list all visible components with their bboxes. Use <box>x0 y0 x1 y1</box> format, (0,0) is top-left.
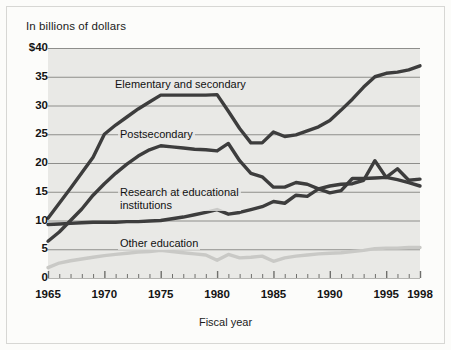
y-tick-label-40: $40 <box>8 42 48 54</box>
y-tick-label-0: 0 <box>8 272 48 284</box>
y-tick-label-15: 15 <box>8 186 48 198</box>
x-tick-label-1970: 1970 <box>92 288 118 300</box>
y-tick-label-25: 25 <box>8 128 48 140</box>
series-annotation-line-2: institutions <box>120 199 239 212</box>
y-tick-text: 10 <box>8 215 48 227</box>
y-tick-text: 20 <box>8 157 48 169</box>
y-tick-text: 35 <box>8 71 48 83</box>
x-tick-label-1965: 1965 <box>35 288 61 300</box>
y-tick-text: 15 <box>8 186 48 198</box>
chart-figure: In billions of dollars $4035302520151050… <box>0 0 451 350</box>
x-tick-label-1995: 1995 <box>373 288 399 300</box>
series-annotation-2: Research at educationalinstitutions <box>118 186 241 211</box>
y-tick-label-20: 20 <box>8 157 48 169</box>
x-tick-label-1985: 1985 <box>261 288 287 300</box>
y-tick-text: $40 <box>8 42 48 54</box>
x-axis-title: Fiscal year <box>0 316 451 328</box>
y-tick-text: 30 <box>8 100 48 112</box>
y-tick-label-35: 35 <box>8 71 48 83</box>
y-tick-text: 5 <box>8 243 48 255</box>
series-annotation-line-1: Research at educational <box>120 186 239 199</box>
y-tick-label-30: 30 <box>8 100 48 112</box>
x-tick-label-1975: 1975 <box>148 288 174 300</box>
x-tick-label-1990: 1990 <box>317 288 343 300</box>
y-tick-text: 25 <box>8 128 48 140</box>
y-tick-text: 0 <box>8 272 48 284</box>
y-tick-label-5: 5 <box>8 243 48 255</box>
y-tick-label-10: 10 <box>8 215 48 227</box>
x-tick-label-1980: 1980 <box>204 288 230 300</box>
series-annotation-1: Postsecondary <box>118 128 195 141</box>
series-annotation-3: Other education <box>118 237 200 250</box>
x-tick-label-1998: 1998 <box>407 288 433 300</box>
series-annotation-0: Elementary and secondary <box>113 78 248 91</box>
